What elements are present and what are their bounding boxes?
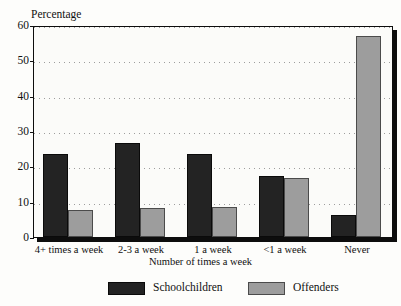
x-axis-tick-label: 2-3 a week <box>105 244 177 255</box>
legend-label: Offenders <box>293 281 339 293</box>
y-axis-tick-mark <box>30 97 34 98</box>
gridline <box>34 62 392 63</box>
legend-swatch-schoolchildren <box>108 282 145 295</box>
y-axis-tick-label: 30 <box>0 126 29 138</box>
y-axis-tick-mark <box>30 26 34 27</box>
y-axis-tick-mark <box>30 238 34 239</box>
x-axis-tick-label: 1 a week <box>177 244 249 255</box>
bar-offenders-3 <box>284 178 309 237</box>
y-axis-tick-mark <box>30 167 34 168</box>
y-axis-tick-label: 50 <box>0 55 29 67</box>
y-axis-tick-label: 10 <box>0 197 29 209</box>
bar-schoolchildren-0 <box>43 154 68 237</box>
x-axis-title: Number of times a week <box>0 256 401 267</box>
y-axis-tick-mark <box>30 203 34 204</box>
gridline <box>34 133 392 134</box>
x-axis-tick-label: Never <box>321 244 393 255</box>
gridline <box>34 98 392 99</box>
bar-offenders-0 <box>68 210 93 237</box>
y-axis-tick-label: 60 <box>0 20 29 32</box>
legend-label: Schoolchildren <box>153 281 223 293</box>
y-axis-tick-label: 20 <box>0 161 29 173</box>
plot-inner <box>34 27 392 237</box>
chart-canvas: Percentage 0102030405060 4+ times a week… <box>0 0 401 306</box>
bar-schoolchildren-4 <box>331 215 356 237</box>
bar-offenders-2 <box>212 207 237 237</box>
bar-schoolchildren-3 <box>259 176 284 237</box>
gridline <box>34 204 392 205</box>
gridline <box>34 168 392 169</box>
plot-area <box>33 26 393 238</box>
y-axis-tick-label: 0 <box>0 232 29 244</box>
legend-swatch-offenders <box>248 282 285 295</box>
chart-legend: SchoolchildrenOffenders <box>0 281 401 303</box>
bar-offenders-4 <box>356 36 381 237</box>
bar-schoolchildren-1 <box>115 143 140 237</box>
bar-schoolchildren-2 <box>187 154 212 237</box>
x-axis-tick-label: <1 a week <box>249 244 321 255</box>
y-axis-tick-mark <box>30 61 34 62</box>
bar-offenders-1 <box>140 208 165 237</box>
y-axis-tick-label: 40 <box>0 91 29 103</box>
cropped-title-fragment <box>118 0 238 3</box>
gridline <box>34 27 392 28</box>
x-axis-tick-label: 4+ times a week <box>33 244 105 255</box>
y-axis-tick-mark <box>30 132 34 133</box>
y-axis-label: Percentage <box>31 8 81 20</box>
